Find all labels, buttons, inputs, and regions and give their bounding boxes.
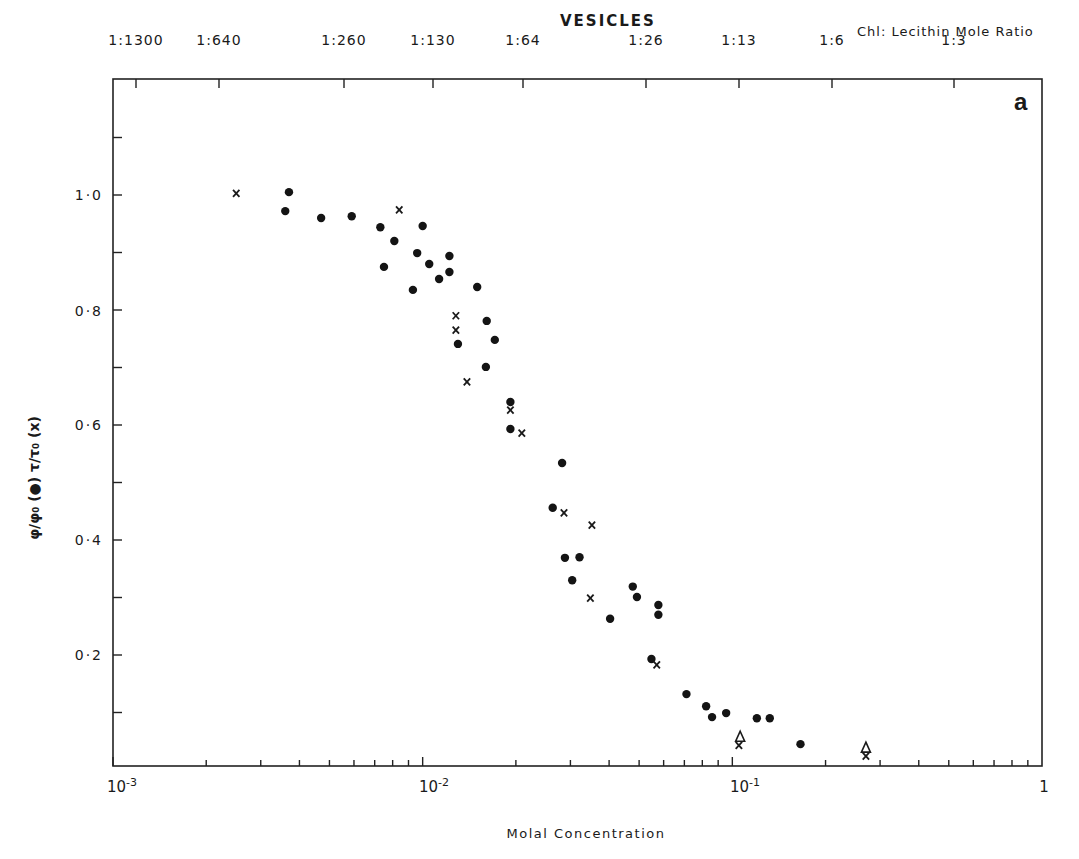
circle-marker (409, 286, 417, 294)
cross-marker (589, 522, 595, 529)
circle-marker (482, 363, 490, 371)
circle-marker (575, 553, 583, 561)
circle-marker (376, 223, 384, 231)
circle-marker (348, 212, 356, 220)
triangle-marker (736, 731, 745, 741)
circle-marker (682, 690, 690, 698)
cross-marker (507, 407, 513, 414)
cross-marker (453, 327, 459, 334)
cross-marker (587, 595, 593, 602)
circle-marker (491, 336, 499, 344)
axis-ticks (113, 79, 1028, 766)
circle-marker (454, 340, 462, 348)
circle-marker (506, 425, 514, 433)
cross-marker (863, 753, 869, 760)
cross-marker (519, 430, 525, 437)
circle-marker (445, 268, 453, 276)
circle-marker (629, 582, 637, 590)
circle-marker (708, 713, 716, 721)
plot-frame (113, 79, 1042, 766)
circle-marker (380, 263, 388, 271)
circle-marker (654, 611, 662, 619)
circle-marker (561, 554, 569, 562)
circle-marker (317, 214, 325, 222)
cross-marker (396, 206, 402, 213)
circle-marker (568, 576, 576, 584)
cross-marker (654, 661, 660, 668)
circle-marker (483, 317, 491, 325)
cross-marker (453, 312, 459, 319)
cross-marker (736, 742, 742, 749)
circle-marker (473, 283, 481, 291)
cross-marker (561, 509, 567, 516)
circle-marker (654, 601, 662, 609)
circle-marker (702, 702, 710, 710)
circle-marker (753, 714, 761, 722)
circle-marker (558, 459, 566, 467)
circle-marker (281, 207, 289, 215)
circle-marker (418, 222, 426, 230)
circle-marker (435, 275, 443, 283)
circle-marker (796, 740, 804, 748)
circle-marker (506, 398, 514, 406)
cross-marker (233, 190, 239, 197)
circle-marker (549, 504, 557, 512)
circle-marker (606, 615, 614, 623)
circle-marker (445, 252, 453, 260)
circle-marker (413, 249, 421, 257)
triangle-marker (861, 742, 870, 752)
circle-marker (722, 709, 730, 717)
circle-marker (285, 188, 293, 196)
scatter-plot (0, 0, 1079, 859)
circle-marker (633, 593, 641, 601)
circle-marker (425, 260, 433, 268)
data-points (233, 188, 870, 760)
circle-marker (390, 237, 398, 245)
cross-marker (464, 378, 470, 385)
circle-marker (766, 714, 774, 722)
